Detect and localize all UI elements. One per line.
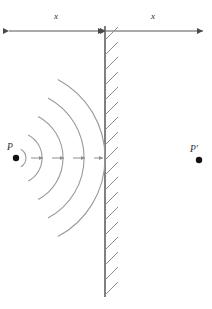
hatch-mark — [105, 42, 118, 55]
mirror-wall — [105, 26, 118, 297]
hatch-mark — [105, 87, 118, 100]
optics-diagram: x x — [0, 0, 212, 309]
left-distance-label: x — [53, 11, 58, 21]
hatch-mark — [105, 222, 118, 235]
hatch-mark — [105, 267, 118, 280]
hatch-mark — [105, 27, 118, 40]
hatch-mark — [105, 102, 118, 115]
image-label: P′ — [189, 144, 199, 154]
hatch-mark — [105, 117, 118, 130]
hatch-mark — [105, 252, 118, 265]
image-dot — [196, 157, 202, 163]
hatch-mark — [105, 132, 118, 145]
source-label: P — [6, 142, 13, 152]
hatch-mark — [105, 282, 118, 295]
hatch-mark — [105, 72, 118, 85]
hatch-mark — [105, 57, 118, 70]
hatch-mark — [105, 192, 118, 205]
source-dot — [13, 155, 19, 161]
hatch-mark — [105, 237, 118, 250]
point-source-p: P — [6, 142, 19, 161]
diagram-canvas: x x — [0, 0, 212, 309]
hatch-mark — [105, 147, 118, 160]
wavefront-arc — [21, 149, 26, 167]
mirror-hatch-group — [105, 27, 118, 295]
virtual-image-p-prime: P′ — [189, 144, 202, 163]
right-distance-label: x — [150, 11, 155, 21]
dimension-axis-left: x — [9, 11, 104, 31]
hatch-mark — [105, 162, 118, 175]
hatch-mark — [105, 177, 118, 190]
hatch-mark — [105, 207, 118, 220]
dimension-axis-right: x — [106, 11, 203, 31]
